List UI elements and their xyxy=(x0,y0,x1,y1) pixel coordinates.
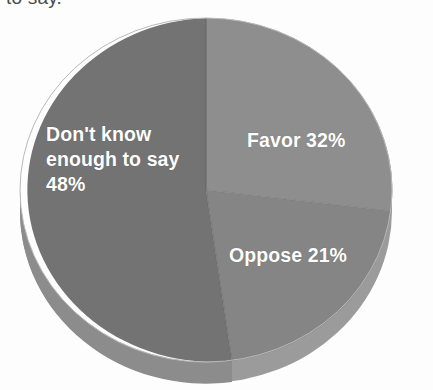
pie-slice-oppose[interactable] xyxy=(206,190,391,361)
pie-slice-favor[interactable] xyxy=(206,18,392,211)
pie-label-favor: Favor 32% xyxy=(247,128,345,153)
pie-label-dont-know: Don't know enough to say 48% xyxy=(46,122,179,197)
pie-label-oppose: Oppose 21% xyxy=(229,243,347,268)
chart-screenshot: to say. xyxy=(0,0,433,390)
